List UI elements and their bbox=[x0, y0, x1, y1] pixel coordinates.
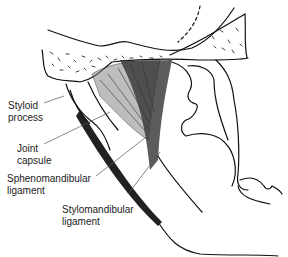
label-line: ligament bbox=[7, 185, 91, 197]
label-line: ligament bbox=[62, 216, 134, 228]
label-line: capsule bbox=[17, 155, 51, 167]
label-line: Sphenomandibular bbox=[7, 173, 91, 185]
label-joint-capsule: Joint capsule bbox=[17, 143, 51, 167]
tmj-ligament-diagram: Styloid process Joint capsule Sphenomand… bbox=[0, 0, 288, 257]
label-line: Joint bbox=[17, 143, 51, 155]
label-styloid-process: Styloid process bbox=[8, 100, 43, 124]
label-line: Stylomandibular bbox=[62, 204, 134, 216]
label-sphenomandibular-ligament: Sphenomandibular ligament bbox=[7, 173, 91, 197]
anatomy-illustration bbox=[0, 0, 288, 257]
label-line: process bbox=[8, 112, 43, 124]
label-line: Styloid bbox=[8, 100, 43, 112]
label-stylomandibular-ligament: Stylomandibular ligament bbox=[62, 204, 134, 228]
